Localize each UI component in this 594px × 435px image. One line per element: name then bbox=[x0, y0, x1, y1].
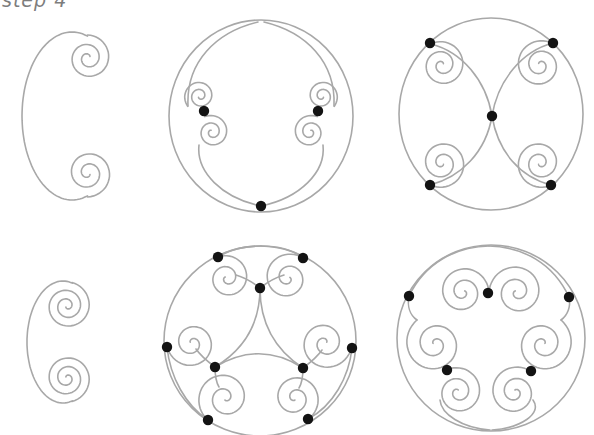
spiral-stroke bbox=[49, 283, 89, 327]
anchor-dot bbox=[425, 38, 435, 48]
scroll-stroke bbox=[22, 32, 88, 200]
spiral-stroke bbox=[407, 320, 457, 369]
spiral-stroke bbox=[426, 42, 463, 84]
spiral-stroke bbox=[201, 116, 227, 145]
scroll-stroke bbox=[188, 22, 258, 106]
scroll-stroke bbox=[492, 43, 553, 116]
anchor-dot bbox=[347, 343, 357, 353]
anchor-dot bbox=[487, 111, 497, 121]
anchor-dot bbox=[548, 38, 558, 48]
scroll-stroke bbox=[264, 22, 334, 106]
anchor-dot bbox=[210, 362, 220, 372]
spiral-stroke bbox=[267, 254, 303, 296]
figure-circle-with-six-scrolls-and-triangle bbox=[162, 246, 357, 435]
spiral-stroke bbox=[72, 154, 110, 197]
anchor-dot bbox=[404, 291, 414, 301]
anchor-dot bbox=[483, 288, 493, 298]
anchor-dot bbox=[213, 252, 223, 262]
diagram-canvas bbox=[0, 0, 594, 435]
figure-circle-with-six-scrolls bbox=[397, 245, 585, 431]
spiral-stroke bbox=[278, 378, 318, 419]
spiral-stroke bbox=[49, 358, 89, 402]
figure-circle-with-four-scrolls bbox=[399, 18, 583, 210]
spiral-stroke bbox=[199, 375, 244, 420]
scroll-stroke bbox=[260, 288, 303, 368]
spiral-stroke bbox=[493, 367, 531, 411]
figure-small-c-scroll bbox=[27, 281, 89, 403]
scroll-stroke bbox=[215, 288, 260, 367]
anchor-dot bbox=[313, 106, 323, 116]
anchor-dot bbox=[162, 342, 172, 352]
anchor-dot bbox=[303, 414, 313, 424]
anchor-dot bbox=[255, 283, 265, 293]
anchor-dot bbox=[199, 106, 209, 116]
spiral-stroke bbox=[443, 269, 489, 310]
rim-circle bbox=[169, 20, 353, 212]
spiral-stroke bbox=[522, 320, 572, 369]
anchor-dot bbox=[546, 180, 556, 190]
figure-circle-with-two-scroll-pairs bbox=[169, 20, 353, 212]
scroll-stroke bbox=[440, 400, 490, 430]
figure-large-c-scroll bbox=[22, 32, 110, 200]
scroll-stroke bbox=[261, 145, 323, 206]
anchor-dot bbox=[256, 201, 266, 211]
anchor-dot bbox=[203, 415, 213, 425]
anchor-dot bbox=[526, 366, 536, 376]
spiral-stroke bbox=[489, 267, 539, 311]
spiral-stroke bbox=[72, 35, 109, 76]
anchor-dot bbox=[564, 292, 574, 302]
anchor-dot bbox=[298, 363, 308, 373]
diagram-page: step 4 bbox=[0, 0, 594, 435]
scroll-stroke bbox=[199, 145, 261, 206]
anchor-dot bbox=[298, 253, 308, 263]
anchor-dot bbox=[442, 365, 452, 375]
anchor-dot bbox=[425, 180, 435, 190]
scroll-stroke bbox=[215, 354, 303, 368]
spiral-stroke bbox=[295, 116, 321, 145]
